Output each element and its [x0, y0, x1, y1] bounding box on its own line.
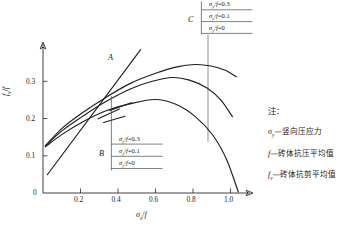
y-tick-label-0.1: 0.1 — [26, 152, 35, 159]
x-tick-label-1.0: 1.0 — [224, 196, 233, 203]
note-item-fv: fv—砖体抗剪平均值 — [268, 168, 364, 181]
callout-c-row-2-value: =0.1 — [218, 12, 230, 19]
callout-b-row-3-value: =0 — [128, 159, 135, 166]
callout-c-label: C — [188, 16, 193, 24]
x-tick-label-0.6: 0.6 — [149, 196, 158, 203]
callout-b-row-3: σy/f=0 — [119, 160, 135, 169]
x-tick-label-0.4: 0.4 — [112, 196, 121, 203]
series-label-a: A — [108, 54, 113, 62]
y-axis-title-denominator: f — [1, 87, 10, 89]
callout-c-row-1-value: =0.3 — [218, 0, 230, 7]
x-axis-title: σx/f — [136, 211, 147, 221]
note-item-f: f—砖体抗压平均值 — [268, 147, 364, 160]
x-tick-label-0.2: 0.2 — [74, 196, 83, 203]
y-axis-title-slash: / — [1, 89, 10, 91]
x-tick-label-0.8: 0.8 — [187, 196, 196, 203]
chart-figure: 0.2 0.4 0.6 0.8 1.0 0 0.1 0.2 0.3 fv/f σ… — [0, 0, 364, 228]
y-axis-title-symbol: f — [1, 94, 10, 96]
callout-c-row-1: σy/f=0.3 — [209, 1, 230, 10]
b-mark-sigma-0.1 — [110, 103, 131, 111]
y-axis-title-subscript: v — [6, 91, 12, 93]
notes-heading: 注： — [268, 104, 364, 116]
b-mark-sigma-0 — [104, 116, 125, 122]
note-item-sigma-y-text: —竖向压应力 — [274, 127, 322, 136]
series-curve-sigma-0 — [45, 99, 238, 191]
y-axis-title: fv/f — [2, 87, 12, 96]
callout-c-row-3: σy/f=0 — [209, 25, 225, 34]
callout-b-label: B — [99, 150, 104, 158]
x-ticks-group — [81, 189, 231, 194]
note-item-sigma-y: σy—竖向压应力 — [268, 125, 364, 138]
b-leader-marks-group — [98, 103, 131, 123]
callout-b-row-2-value: =0.1 — [128, 147, 140, 154]
axes-group — [40, 42, 253, 196]
x-axis-title-denominator: f — [145, 210, 147, 219]
callout-b-row-1-value: =0.3 — [128, 135, 140, 142]
notes-panel: 注： σy—竖向压应力 f—砖体抗压平均值 fv—砖体抗剪平均值 — [268, 104, 364, 190]
y-tick-label-0.3: 0.3 — [26, 78, 35, 85]
note-item-fv-text: —砖体抗剪平均值 — [273, 170, 337, 179]
note-item-f-text: —砖体抗压平均值 — [270, 149, 334, 158]
b-mark-sigma-0.3 — [98, 109, 119, 119]
callout-b-row-2: σy/f=0.1 — [119, 148, 140, 157]
callout-b-row-1: σy/f=0.3 — [119, 136, 140, 145]
y-tick-label-0.2: 0.2 — [26, 115, 35, 122]
y-tick-label-0: 0 — [33, 189, 37, 196]
callout-c-row-3-value: =0 — [218, 24, 225, 31]
callout-c-row-2: σy/f=0.1 — [209, 13, 230, 22]
